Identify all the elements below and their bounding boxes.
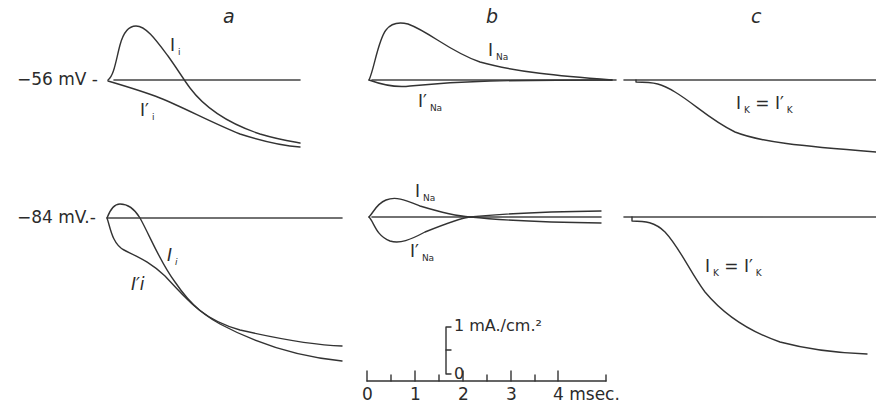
label-sub: i: [175, 257, 178, 267]
label-c-bot-IK: IK = I′K: [705, 258, 762, 278]
row-label-56mv: −56 mV -: [17, 71, 98, 88]
label-sub: Na: [422, 253, 434, 263]
time-label-3: 3: [506, 386, 517, 403]
panel-letter-a: a: [223, 7, 235, 26]
label-text: I′: [410, 241, 419, 261]
curve-c-bot-IK: [632, 217, 867, 354]
label-text: = I′: [719, 256, 753, 276]
label-b-bot-INap: I′Na: [410, 243, 434, 263]
panel-letter-c: c: [751, 7, 761, 26]
plot-canvas: [0, 0, 876, 410]
label-sub: i: [178, 47, 181, 57]
label-sub: Na: [430, 103, 442, 113]
time-label-0: 0: [362, 386, 373, 403]
label-text: = I′: [750, 93, 784, 113]
label-text: I: [705, 256, 710, 276]
label-text: I′: [140, 100, 149, 120]
label-sub: K: [787, 105, 793, 115]
label-sub: Na: [496, 52, 508, 62]
label-sub: Na: [423, 193, 435, 203]
label-a-top-Ii: Ii: [170, 37, 181, 57]
label-text: I: [736, 93, 741, 113]
current-scale-label: 1 mA./cm.²: [454, 318, 542, 334]
label-c-top-IK: IK = I′K: [736, 95, 793, 115]
time-label-4: 4 msec.: [553, 386, 620, 403]
figure: a b c −56 mV - −84 mV.- Ii I′i INa I′Na …: [0, 0, 876, 410]
label-a-bot-Ii: Ii: [167, 247, 178, 267]
panel-letter-b: b: [486, 7, 498, 26]
label-text: I′: [418, 91, 427, 111]
label-a-bot-Iip: I′i: [131, 276, 145, 293]
curve-a-top-Ii: [108, 26, 300, 143]
curve-b-top-INap: [369, 80, 612, 87]
time-label-1: 1: [410, 386, 421, 403]
label-b-top-INap: I′Na: [418, 93, 442, 113]
curve-b-bot-INap: [369, 217, 601, 242]
label-b-top-INa: INa: [488, 42, 508, 62]
curve-b-bot-INa: [369, 198, 601, 217]
label-text: I: [167, 245, 172, 265]
label-a-top-Iip: I′i: [140, 102, 154, 122]
label-text: I: [170, 35, 175, 55]
label-b-bot-INa: INa: [415, 183, 435, 203]
row-label-84mv: −84 mV.-: [17, 209, 96, 226]
label-text: I: [488, 40, 493, 60]
label-text: I: [415, 181, 420, 201]
label-sub: K: [756, 268, 762, 278]
curve-c-top-IK: [636, 80, 876, 152]
label-sub: i: [152, 112, 155, 122]
time-label-2: 2: [458, 386, 469, 403]
current-scale-zero: 0: [454, 366, 464, 382]
